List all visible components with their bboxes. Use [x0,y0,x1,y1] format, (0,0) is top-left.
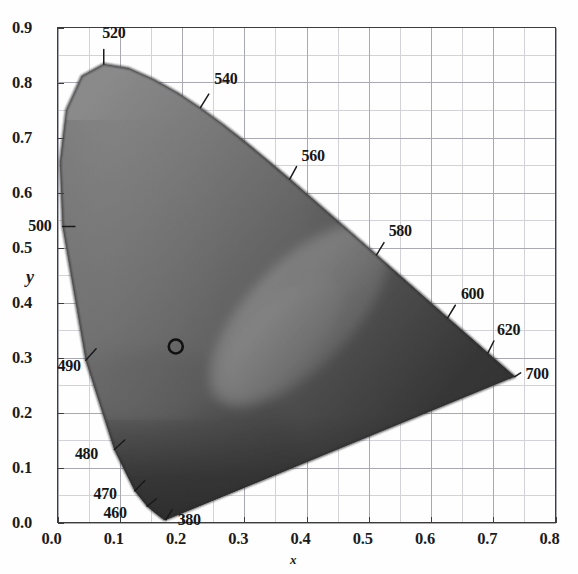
x-tick-label: 0.3 [228,529,248,549]
x-tick-label: 0.6 [415,529,435,549]
wavelength-label-560: 560 [302,147,325,165]
y-tick-label: 0.8 [12,73,32,93]
y-tick-label: 0.7 [12,128,32,148]
y-tick-label: 0.6 [12,183,32,203]
wavelength-label-460: 460 [104,504,127,522]
cie-chromaticity-figure: 0.00.10.20.30.40.50.60.70.8 0.00.10.20.3… [0,0,578,574]
wavelength-label-600: 600 [461,285,484,303]
x-tick-label: 0.8 [540,529,560,549]
y-tick-label: 0.2 [12,403,32,423]
wavelength-label-490: 490 [58,357,81,375]
x-tick-label: 0.0 [42,529,62,549]
gamut-shading [0,0,578,574]
chromaticity-plot-canvas [0,0,578,574]
y-tick-label: 0.9 [12,18,32,38]
x-tick-label: 0.7 [477,529,497,549]
wavelength-label-480: 480 [75,445,98,463]
y-tick-label: 0.5 [12,238,32,258]
x-tick-label: 0.5 [353,529,373,549]
x-tick-label: 0.1 [104,529,124,549]
wavelength-label-700: 700 [526,365,549,383]
y-tick-label: 0.0 [12,513,32,533]
y-axis-title: y [26,267,34,288]
wavelength-label-620: 620 [497,321,520,339]
x-tick-label: 0.4 [291,529,311,549]
y-tick-label: 0.4 [12,293,32,313]
x-tick-label: 0.2 [166,529,186,549]
y-tick-label: 0.1 [12,458,32,478]
wavelength-label-540: 540 [214,70,237,88]
wavelength-label-580: 580 [389,222,412,240]
wavelength-label-520: 520 [102,24,125,42]
wavelength-label-470: 470 [94,485,117,503]
x-axis-title: x [290,552,297,568]
y-tick-label: 0.3 [12,348,32,368]
wavelength-label-380: 380 [178,511,201,529]
wavelength-label-500: 500 [28,217,51,235]
